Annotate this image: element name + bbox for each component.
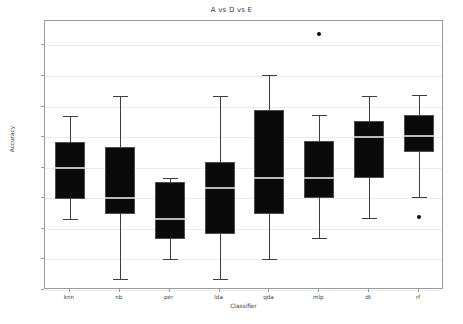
whisker-lower-rf xyxy=(419,152,420,197)
whisker-cap-upper-per xyxy=(163,178,178,179)
outlier-mlp-0 xyxy=(317,32,321,36)
box-per xyxy=(155,182,185,239)
x-tick-label-knn: knn xyxy=(44,294,94,300)
whisker-cap-upper-qda xyxy=(262,75,277,76)
whisker-lower-nb xyxy=(120,214,121,279)
x-axis-label: Classifier xyxy=(44,303,443,309)
box-dt xyxy=(354,121,384,178)
whisker-cap-upper-lda xyxy=(213,96,228,97)
y-tick-mark xyxy=(41,197,44,198)
x-tick-mark xyxy=(219,289,220,292)
median-per xyxy=(155,218,185,220)
x-tick-mark xyxy=(169,289,170,292)
box-qda xyxy=(254,110,284,213)
whisker-cap-upper-dt xyxy=(362,96,377,97)
median-dt xyxy=(354,136,384,138)
whisker-lower-dt xyxy=(369,178,370,218)
x-tick-label-per: per xyxy=(144,294,194,300)
whisker-cap-lower-lda xyxy=(213,279,228,280)
x-tick-mark xyxy=(69,289,70,292)
y-tick-mark xyxy=(41,106,44,107)
chart-title: A vs D vs E xyxy=(0,6,463,14)
x-tick-mark xyxy=(418,289,419,292)
whisker-cap-upper-nb xyxy=(113,96,128,97)
x-tick-label-qda: qda xyxy=(243,294,293,300)
median-qda xyxy=(254,177,284,179)
box-rf xyxy=(404,115,434,152)
whisker-lower-mlp xyxy=(319,198,320,238)
whisker-cap-upper-mlp xyxy=(312,115,327,116)
whisker-cap-lower-rf xyxy=(412,197,427,198)
whisker-upper-qda xyxy=(269,75,270,110)
whisker-cap-upper-knn xyxy=(63,116,78,117)
x-tick-mark xyxy=(368,289,369,292)
box-nb xyxy=(105,147,135,214)
whisker-lower-knn xyxy=(70,199,71,219)
whisker-upper-nb xyxy=(120,96,121,147)
gridline xyxy=(45,290,442,291)
y-tick-mark xyxy=(41,136,44,137)
whisker-cap-lower-mlp xyxy=(312,238,327,239)
median-knn xyxy=(55,167,85,169)
whisker-lower-lda xyxy=(220,234,221,279)
gridline xyxy=(45,76,442,77)
whisker-upper-knn xyxy=(70,116,71,142)
x-tick-label-nb: nb xyxy=(94,294,144,300)
x-tick-mark xyxy=(318,289,319,292)
whisker-cap-lower-qda xyxy=(262,259,277,260)
whisker-lower-qda xyxy=(269,214,270,259)
box-mlp xyxy=(304,141,334,198)
x-tick-label-rf: rf xyxy=(393,294,443,300)
whisker-upper-lda xyxy=(220,96,221,162)
y-tick-mark xyxy=(41,289,44,290)
median-nb xyxy=(105,197,135,199)
y-tick-mark xyxy=(41,228,44,229)
box-lda xyxy=(205,162,235,234)
y-tick-mark xyxy=(41,258,44,259)
whisker-lower-per xyxy=(170,239,171,259)
whisker-cap-lower-dt xyxy=(362,218,377,219)
plot-area xyxy=(44,20,443,289)
gridline xyxy=(45,107,442,108)
median-mlp xyxy=(304,177,334,179)
boxplot-figure: A vs D vs E Accuracy 0.850.800.750.700.6… xyxy=(0,0,463,324)
whisker-cap-lower-knn xyxy=(63,219,78,220)
whisker-upper-mlp xyxy=(319,115,320,141)
whisker-cap-upper-rf xyxy=(412,95,427,96)
outlier-rf-0 xyxy=(417,215,421,219)
x-tick-label-mlp: mlp xyxy=(293,294,343,300)
median-rf xyxy=(404,135,434,137)
x-tick-label-lda: lda xyxy=(194,294,244,300)
y-tick-mark xyxy=(41,44,44,45)
whisker-cap-lower-nb xyxy=(113,279,128,280)
y-tick-mark xyxy=(41,75,44,76)
whisker-cap-lower-per xyxy=(163,259,178,260)
gridline xyxy=(45,229,442,230)
y-axis-label: Accuracy xyxy=(9,109,15,169)
whisker-upper-rf xyxy=(419,95,420,115)
whisker-upper-dt xyxy=(369,96,370,121)
gridline xyxy=(45,259,442,260)
median-lda xyxy=(205,187,235,189)
gridline xyxy=(45,45,442,46)
x-tick-mark xyxy=(268,289,269,292)
box-knn xyxy=(55,142,85,199)
x-tick-mark xyxy=(119,289,120,292)
x-tick-label-dt: dt xyxy=(343,294,393,300)
y-tick-mark xyxy=(41,167,44,168)
